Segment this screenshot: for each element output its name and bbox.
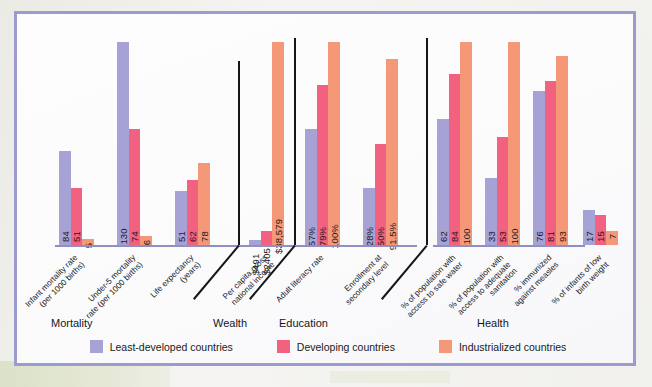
legend-swatch-icon (277, 340, 290, 353)
section-label-health: Health (477, 317, 509, 329)
legend-item: Least-developed countries (90, 340, 233, 353)
section-label-education: Education (279, 317, 328, 329)
bar-value-label: 7 (606, 234, 617, 239)
bar-value-label: 93 (556, 231, 567, 242)
bar-value-label: 17 (583, 231, 594, 242)
bar-value-label: 28% (363, 227, 374, 246)
bar: 62 (437, 119, 449, 245)
bar: 28% (363, 188, 375, 245)
bar-value-label: 15 (595, 231, 606, 242)
bar-value-label: 81 (545, 231, 556, 242)
bar: 93 (556, 56, 568, 245)
bar: 84 (59, 151, 71, 245)
axis-baseline (433, 245, 585, 247)
bar-value-label: 53 (497, 231, 508, 242)
bar: 53 (497, 137, 509, 245)
bar: 79% (317, 85, 329, 245)
bar-value-label: 62 (437, 231, 448, 242)
bar-value-label: 100 (508, 228, 519, 244)
bar: 62 (187, 180, 199, 245)
bar-value-label: 6 (140, 239, 151, 244)
bar: 100% (328, 42, 340, 245)
bar: 6 (140, 236, 152, 245)
section-label-wealth: Wealth (213, 317, 247, 329)
section-divider (426, 38, 428, 245)
bar-value-label: $38,579 (272, 219, 283, 254)
grouped-bar-chart: 84Infant mortality rate(per 1000 births)… (17, 14, 639, 369)
section-divider (238, 61, 240, 245)
legend-label: Industrialized countries (459, 341, 566, 353)
bar: 50% (375, 144, 387, 246)
bar: 15 (595, 215, 607, 245)
bar: 81 (545, 81, 557, 245)
bar-value-label: 57% (305, 227, 316, 246)
bar-value-label: 130 (117, 228, 128, 244)
bar: 33 (485, 178, 497, 245)
category-axis-label: Under-5 mortalityrate (per 1000 births) (77, 253, 145, 321)
bar-value-label: 33 (485, 231, 496, 242)
bar-value-label: 62 (187, 231, 198, 242)
category-axis-label: % of infants of lowbirth weight (550, 253, 610, 313)
legend-swatch-icon (439, 340, 452, 353)
bar: 51 (71, 188, 83, 245)
bar-value-label: 50% (375, 227, 386, 246)
bar-value-label: 78 (198, 231, 209, 242)
bar: 91.5% (386, 59, 398, 245)
bar-value-label: 76 (533, 231, 544, 242)
legend-swatch-icon (90, 340, 103, 353)
bar-value-label: 51 (71, 231, 82, 242)
bar: 100 (460, 42, 472, 245)
bar-value-label: 84 (449, 231, 460, 242)
bar: 78 (198, 163, 210, 245)
bar: 100 (508, 42, 520, 245)
bar: 84 (449, 74, 461, 245)
bar: 130 (117, 42, 129, 245)
bar-value-label: 51 (175, 231, 186, 242)
bar: 7 (606, 231, 618, 245)
bar: 51 (175, 191, 187, 245)
axis-baseline (301, 245, 417, 247)
bar: 76 (533, 91, 545, 245)
bar: $38,579 (272, 42, 284, 245)
bar-value-label: 84 (59, 231, 70, 242)
page-edge-green-strip-secondary (330, 371, 450, 383)
legend-item: Developing countries (277, 340, 395, 353)
chart-legend: Least-developed countriesDeveloping coun… (17, 340, 639, 353)
bar-value-label: $2405 (261, 248, 272, 275)
legend-item: Industrialized countries (439, 340, 566, 353)
bar: 74 (129, 129, 141, 245)
section-label-mortality: Mortality (51, 317, 93, 329)
chart-frame: 84Infant mortality rate(per 1000 births)… (14, 11, 636, 366)
bar-value-label: 74 (129, 231, 140, 242)
bar: $2405 (261, 231, 273, 245)
legend-label: Developing countries (297, 341, 395, 353)
bar-value-label: 79% (317, 227, 328, 246)
bar: 57% (305, 129, 317, 245)
bar-value-label: 100 (460, 228, 471, 244)
legend-label: Least-developed countries (110, 341, 233, 353)
section-divider (294, 38, 296, 245)
bar: 17 (583, 210, 595, 245)
